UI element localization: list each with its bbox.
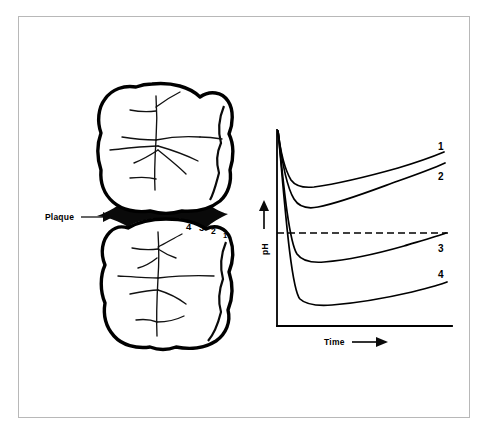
ph-curve-2	[278, 131, 445, 208]
ph-curve-1	[278, 131, 444, 187]
figure-canvas: Plaque 4 3 2 1	[0, 0, 486, 432]
ph-curve-4	[278, 131, 447, 305]
site-label-4: 4	[186, 221, 192, 232]
site-label-3: 3	[199, 222, 204, 233]
arrow-right-icon	[376, 337, 388, 347]
plaque-label: Plaque	[45, 212, 74, 222]
ph-curve-label-1: 1	[438, 141, 444, 152]
ph-curve-label-3: 3	[438, 243, 444, 254]
interproximal-plaque-illustration: Plaque 4 3 2 1	[45, 84, 233, 350]
ph-curve-label-2: 2	[438, 171, 444, 182]
stephan-curve-chart: 1 2 3 4 pH Time	[259, 130, 452, 347]
lower-molar-occlusal-view	[101, 219, 232, 349]
site-label-2: 2	[211, 226, 216, 236]
ph-curve-label-4: 4	[438, 269, 444, 280]
site-label-1: 1	[223, 231, 227, 240]
y-axis-label-group: pH	[259, 200, 270, 255]
arrow-up-icon	[259, 200, 269, 211]
x-axis-label-group: Time	[324, 337, 388, 347]
ph-curve-3	[278, 131, 446, 262]
figure-root: Plaque 4 3 2 1	[0, 0, 486, 432]
x-axis-label: Time	[324, 337, 345, 347]
plaque-callout: Plaque	[45, 212, 113, 222]
y-axis-label: pH	[260, 243, 270, 255]
